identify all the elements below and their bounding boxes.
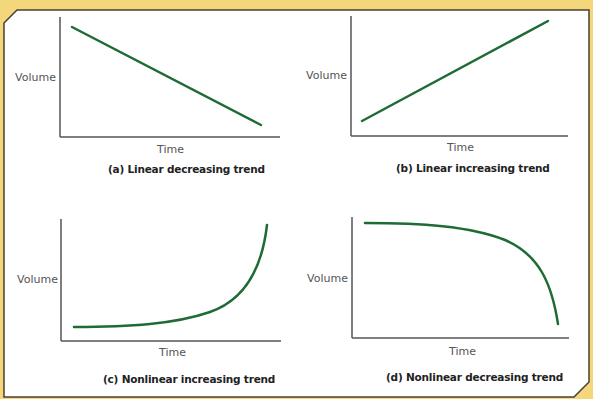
chart-d-ylabel: Volume [307,272,348,285]
chart-d-axes [352,217,569,338]
chart-d-xlabel: Time [449,345,476,358]
chart-d-trend-curve [365,223,558,324]
chart-d-caption: (d) Nonlinear decreasing trend [386,371,563,383]
chart-d-nonlinear-decreasing [0,0,593,399]
